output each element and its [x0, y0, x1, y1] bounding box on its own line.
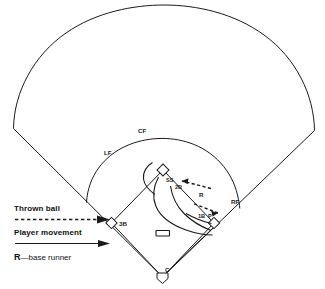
thrown-ball-path-lower: [192, 203, 218, 213]
pitchers-rubber: [156, 231, 170, 237]
legend-row-thrown-ball: Thrown ball: [14, 204, 132, 224]
legend-label-base-runner: R—base runner: [14, 252, 132, 263]
fielder-approach-arc: [143, 163, 155, 195]
legend-base-runner-text: —base runner: [21, 253, 72, 262]
thrown-ball-arrowhead-lower: [211, 211, 218, 217]
legend-row-player-movement: Player movement: [14, 228, 132, 248]
shortstop-to-first-arc: [154, 177, 213, 235]
position-label-rf: RF: [231, 198, 239, 205]
right-line-inner-rail: [176, 228, 213, 263]
position-label-1b: 1B: [198, 213, 205, 219]
legend-player-movement-arrow: [14, 239, 110, 248]
legend-row-base-runner: R—base runner: [14, 252, 132, 263]
home-plate: [157, 273, 168, 284]
legend-label-thrown-ball: Thrown ball: [14, 204, 132, 214]
position-label-c: C: [165, 266, 170, 273]
position-label-ss: SS: [166, 177, 174, 183]
position-label-p: P: [208, 213, 212, 219]
legend-thrown-ball-arrow: [14, 215, 110, 224]
position-label-base-runner: R: [199, 191, 204, 198]
legend: Thrown ball Player movement R—base runne…: [14, 204, 132, 265]
position-label-cf: CF: [138, 127, 146, 134]
position-label-lf: LF: [104, 149, 112, 156]
baseball-field-diagram: LF CF RF SS 2B 1B 3B C R P Thrown ball P…: [0, 0, 325, 289]
thrown-ball-arrowhead-upper: [182, 178, 189, 184]
position-label-2b: 2B: [175, 184, 182, 190]
outfield-fence: [14, 5, 315, 131]
legend-label-player-movement: Player movement: [14, 228, 132, 238]
